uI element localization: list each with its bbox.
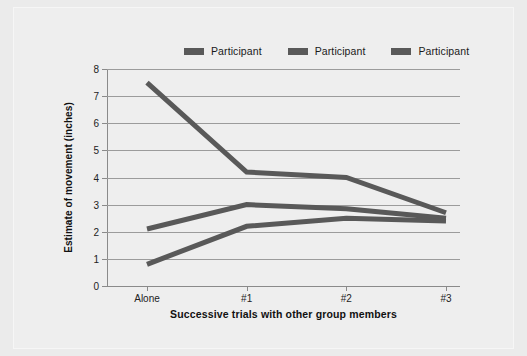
y-axis-tick-label: 1 — [93, 253, 99, 264]
y-axis-tick-label: 5 — [93, 145, 99, 156]
x-axis-tick — [346, 286, 347, 291]
y-axis-tick-label: 4 — [93, 172, 99, 183]
y-axis-title: Estimate of movement (inches) — [60, 69, 76, 286]
y-axis-tick — [102, 286, 107, 287]
legend-label: Participant — [418, 45, 469, 57]
legend-label: Participant — [211, 45, 262, 57]
series-line-3 — [147, 218, 446, 264]
x-axis-tick — [147, 286, 148, 291]
chart-legend: Participant Participant Participant — [184, 42, 504, 60]
y-axis-tick-label: 3 — [93, 199, 99, 210]
y-axis-tick-label: 8 — [93, 64, 99, 75]
x-axis-tick-label: #2 — [341, 293, 352, 304]
y-axis-tick-label: 0 — [93, 281, 99, 292]
y-axis-tick-label: 2 — [93, 226, 99, 237]
line-swatch-icon — [391, 48, 411, 55]
series-lines — [107, 69, 460, 286]
line-swatch-icon — [288, 48, 308, 55]
y-axis-tick-label: 6 — [93, 118, 99, 129]
plot-area: 012345678 Alone#1#2#3 — [107, 69, 460, 286]
line-chart: Participant Participant Participant Esti… — [14, 8, 513, 348]
x-axis-tick-label: #3 — [440, 293, 451, 304]
y-axis-tick-label: 7 — [93, 91, 99, 102]
x-axis-line — [107, 286, 460, 287]
series-line-1 — [147, 83, 446, 213]
x-axis-title: Successive trials with other group membe… — [107, 308, 460, 320]
legend-label: Participant — [315, 45, 366, 57]
legend-item-participant-2[interactable]: Participant — [288, 45, 366, 57]
chart-figure: Participant Participant Participant Esti… — [14, 8, 513, 348]
line-swatch-icon — [184, 48, 204, 55]
x-axis-tick-label: #1 — [241, 293, 252, 304]
legend-item-participant-3[interactable]: Participant — [391, 45, 469, 57]
x-axis-tick — [247, 286, 248, 291]
legend-item-participant-1[interactable]: Participant — [184, 45, 262, 57]
x-axis-tick-label: Alone — [134, 293, 160, 304]
x-axis-tick — [446, 286, 447, 291]
series-line-2 — [147, 205, 446, 229]
